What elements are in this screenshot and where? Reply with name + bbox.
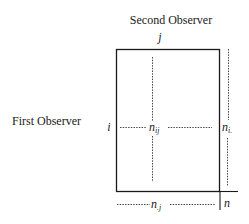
- grand-total-label-n: n: [224, 196, 230, 210]
- column-total-label-nj: n.j: [151, 197, 162, 212]
- row-total-label-ni: ni.: [222, 120, 232, 135]
- contingency-table-diagram: Second Observer j First Observer i nij n…: [0, 0, 249, 224]
- column-index-j: j: [156, 30, 162, 44]
- first-observer-label: First Observer: [12, 114, 81, 128]
- row-index-i: i: [107, 120, 110, 134]
- cell-label-nij: nij: [149, 120, 160, 135]
- table-box: [117, 50, 220, 192]
- second-observer-label: Second Observer: [130, 13, 212, 27]
